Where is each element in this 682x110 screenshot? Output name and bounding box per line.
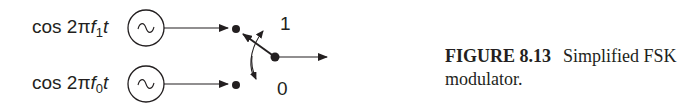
contact-0-dot [232,81,240,89]
switch-motion-arrow-down [252,56,256,79]
contact-1-dot [232,25,240,33]
sine-source-icon-bottom [128,66,164,102]
sine-source-icon-top [128,10,164,46]
figure-number: FIGURE 8.13 [445,46,551,66]
signal-label-f0: cos 2πf0t [32,72,108,96]
switch-position-0-label: 0 [277,78,288,100]
signal-label-f1: cos 2πf1t [32,16,108,40]
fsk-modulator-diagram: cos 2πf1t cos 2πf0t 1 0 FIGURE 8.13Simpl… [0,0,682,110]
switch-pivot-dot [271,53,280,62]
figure-caption: FIGURE 8.13Simplified FSK modulator. [445,45,681,91]
switch-position-1-label: 1 [280,13,291,35]
